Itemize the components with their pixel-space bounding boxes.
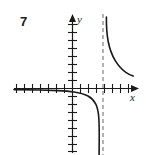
curve-left-branch [14, 90, 99, 155]
coordinate-plane-svg: y x [0, 0, 146, 155]
curve-right-branch [106, 17, 133, 76]
graph-figure: 7 [0, 0, 146, 155]
y-axis-arrowhead [69, 14, 76, 22]
y-axis-label: y [76, 13, 82, 25]
x-axis-label: x [129, 91, 135, 103]
